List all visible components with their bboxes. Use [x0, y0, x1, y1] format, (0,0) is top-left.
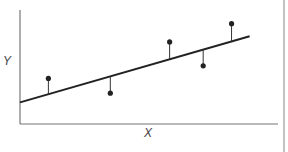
residuals — [48, 24, 231, 94]
data-point — [108, 91, 113, 96]
data-points — [46, 21, 234, 96]
data-point — [46, 76, 51, 81]
y-axis-label: Y — [3, 54, 11, 68]
data-point — [229, 21, 234, 26]
data-point — [201, 63, 206, 68]
data-point — [167, 39, 172, 44]
x-axis-label: X — [144, 126, 152, 140]
regression-line — [20, 36, 250, 102]
